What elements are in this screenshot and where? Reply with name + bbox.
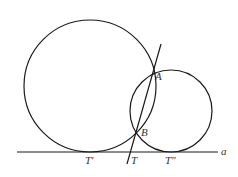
label-point-T-double-prime: T"	[165, 154, 176, 166]
label-line-a: a	[221, 145, 227, 157]
label-point-T-prime: T'	[85, 154, 94, 166]
secant-line-AB	[127, 44, 161, 164]
label-point-T: T	[131, 154, 138, 166]
diagram-canvas: A B T' T T" a	[0, 0, 238, 177]
label-point-B: B	[141, 126, 148, 138]
label-point-A: A	[154, 70, 162, 82]
